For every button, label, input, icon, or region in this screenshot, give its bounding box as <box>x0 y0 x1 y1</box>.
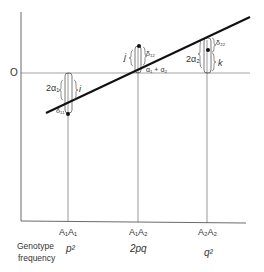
bracket-a2a2 <box>204 38 211 73</box>
label-j: j <box>124 53 126 62</box>
frequency-a1a1: p² <box>66 244 75 254</box>
point-a1a2 <box>137 44 141 48</box>
row-label-genotype: Genotype <box>17 242 54 251</box>
label-2alpha1: 2α₁ <box>46 84 59 93</box>
brace-k <box>212 53 216 71</box>
brace-j <box>129 50 133 66</box>
label-i: i <box>79 85 81 94</box>
label-2alpha2: 2α₂ <box>186 55 200 64</box>
zero-label: O <box>10 68 18 78</box>
label-delta11: δ₁₁ <box>56 107 65 114</box>
x-axis <box>21 221 246 223</box>
genotype-label-a2a2: A₂A₂ <box>198 228 217 237</box>
frequency-a2a2: q² <box>204 248 213 258</box>
label-delta12: δ₁₂ <box>146 50 155 57</box>
brace-2alpha1 <box>59 80 63 100</box>
point-a2a2 <box>206 48 210 52</box>
genotype-label-a1a2: A₁A₂ <box>129 228 148 237</box>
row-label-frequency: frequency <box>18 254 55 263</box>
point-a1a1 <box>66 112 70 116</box>
label-alpha1-plus-alpha2: α₁ + α₂ <box>146 66 167 73</box>
label-k: k <box>218 59 223 68</box>
bracket-a1a1 <box>65 73 72 113</box>
genotype-label-a1a1: A₁A₁ <box>59 228 77 237</box>
label-delta22: δ₂₂ <box>216 39 225 46</box>
brace-i <box>74 80 78 100</box>
frequency-a1a2: 2pq <box>130 244 147 254</box>
